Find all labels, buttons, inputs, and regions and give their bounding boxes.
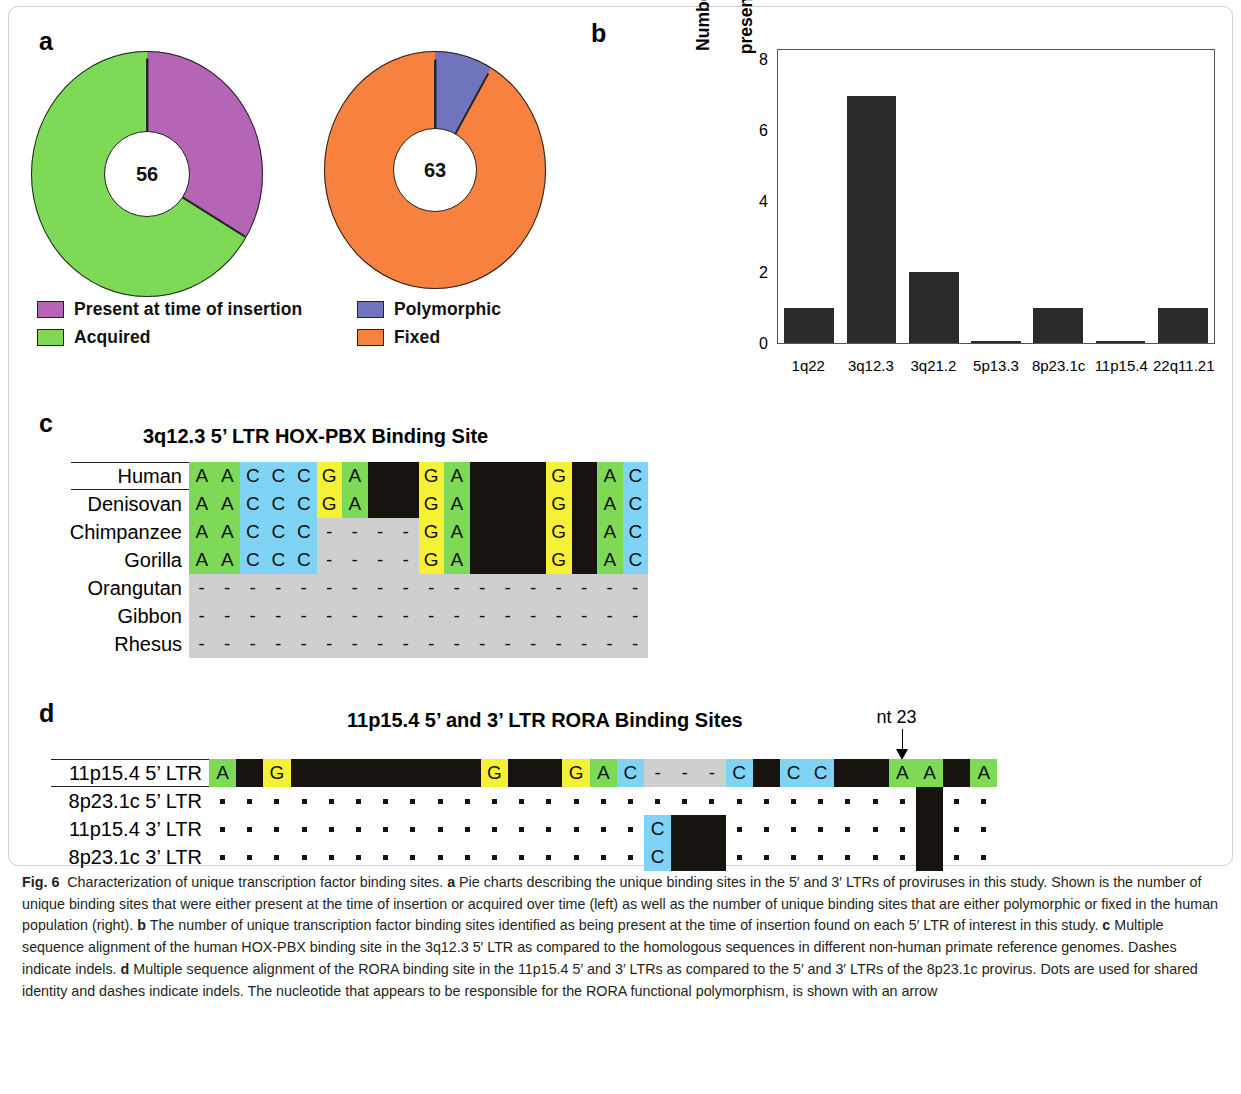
identity-dot [356,799,361,804]
alignment-cell: - [215,574,241,602]
alignment-cell [943,759,970,787]
alignment-cell [454,759,481,787]
alignment-cell [521,462,547,490]
alignment-cell [916,787,943,815]
bar [971,341,1021,343]
alignment-cell: C [266,462,292,490]
alignment-cell [753,787,780,815]
alignment-cell: A [189,546,215,574]
alignment-cell: C [266,490,292,518]
alignment-cell [508,759,535,787]
alignment-row-cells [209,787,997,815]
alignment-cell: A [970,759,997,787]
alignment-cell: - [597,574,623,602]
y-axis-tick-label: 4 [759,193,777,211]
alignment-cell: A [215,490,241,518]
alignment-cell [726,843,753,871]
identity-dot [546,827,551,832]
alignment-cell [943,787,970,815]
alignment-cell: - [317,518,343,546]
identity-dot [791,799,796,804]
alignment-cell [291,815,318,843]
alignment-cell: C [266,518,292,546]
alignment-cell [318,843,345,871]
alignment-cell [780,787,807,815]
alignment-cell [562,843,589,871]
alignment-cell: C [266,546,292,574]
legend-polymorphic-fixed: PolymorphicFixed [357,299,501,355]
identity-dot [329,827,334,832]
alignment-cell [862,787,889,815]
alignment-row-cells: ------------------ [189,574,648,602]
alignment-cell [698,787,725,815]
donut-chart-polymorphic-fixed: 63 [324,51,546,289]
alignment-row-cells: C [209,843,997,871]
alignment-cell: - [240,630,266,658]
alignment-cell [209,787,236,815]
alignment-cell [318,787,345,815]
alignment-cell [345,815,372,843]
alignment-cell: C [644,815,671,843]
alignment-cell: - [240,602,266,630]
identity-dot [410,855,415,860]
identity-dot [900,827,905,832]
alignment-cell: G [263,759,290,787]
identity-dot [845,799,850,804]
identity-dot [628,855,633,860]
identity-dot [410,827,415,832]
alignment-cell [617,843,644,871]
alignment-cell: A [189,518,215,546]
alignment-cell [807,815,834,843]
identity-dot [818,855,823,860]
alignment-c-title: 3q12.3 5’ LTR HOX-PBX Binding Site [143,425,488,448]
alignment-cell: - [189,574,215,602]
alignment-cell: A [342,462,368,490]
alignment-cell: C [617,759,644,787]
alignment-cell: A [889,759,916,787]
alignment-cell [572,490,598,518]
alignment-cell [427,843,454,871]
alignment-cell: - [368,602,394,630]
alignment-cell [454,843,481,871]
alignment-cell [862,815,889,843]
alignment-cell: C [291,546,317,574]
identity-dot [302,799,307,804]
x-axis-tick-label: 11p15.4 [1090,357,1153,374]
alignment-cell [399,815,426,843]
alignment-cell: - [546,602,572,630]
alignment-cell [236,759,263,787]
alignment-cell [263,815,290,843]
alignment-cell [726,815,753,843]
alignment-cell [372,759,399,787]
alignment-cell [263,843,290,871]
alignment-cell [481,787,508,815]
panel-letter-b: b [591,21,606,46]
legend-swatch [357,301,384,318]
alignment-cell [726,787,753,815]
alignment-cell: G [481,759,508,787]
alignment-cell: C [240,546,266,574]
identity-dot [900,855,905,860]
alignment-cell: - [521,630,547,658]
alignment-cell [834,843,861,871]
x-axis-tick-label: 8p23.1c [1027,357,1090,374]
alignment-cell [209,843,236,871]
alignment-cell: - [317,574,343,602]
alignment-cell [753,759,780,787]
alignment-cell: - [444,630,470,658]
bar [909,272,959,343]
alignment-cell: - [291,630,317,658]
identity-dot [601,855,606,860]
alignment-cell: - [470,602,496,630]
identity-dot [329,799,334,804]
identity-dot [981,827,986,832]
alignment-cell [454,815,481,843]
y-axis-tick-label: 2 [759,264,777,282]
alignment-cell [970,787,997,815]
alignment-cell: - [495,630,521,658]
alignment-cell [671,843,698,871]
identity-dot [438,827,443,832]
bar [1158,308,1208,343]
alignment-cell: A [342,490,368,518]
alignment-cell [470,546,496,574]
